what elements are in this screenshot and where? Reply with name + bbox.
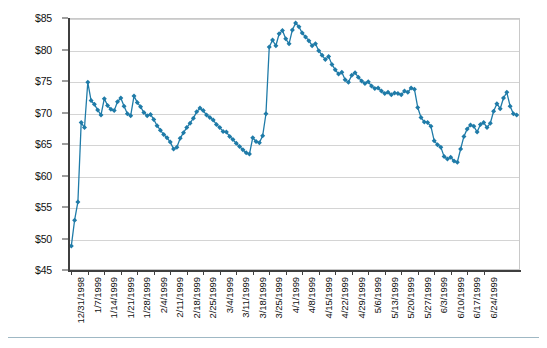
x-axis-tick-label: 4/22/1999 — [339, 277, 350, 318]
x-axis-tick-label: 5/20/1999 — [405, 277, 416, 318]
y-axis-tick-labels: $45$50$55$60$65$70$75$80$85 — [0, 0, 66, 348]
y-axis-tick-label: $45 — [35, 264, 52, 276]
x-axis-tick-label: 4/8/1999 — [306, 277, 317, 313]
x-axis-tick-mark — [236, 270, 237, 275]
x-axis-tick-label: 12/31/1998 — [75, 277, 86, 324]
series-line — [71, 23, 516, 246]
x-axis-tick-label: 4/15/1999 — [323, 277, 334, 318]
x-axis-tick-label: 6/10/1999 — [455, 277, 466, 318]
y-axis-tick-label: $65 — [35, 138, 52, 150]
x-axis-tick-label: 6/3/1999 — [438, 277, 449, 313]
y-axis-tick-mark — [62, 175, 68, 176]
x-axis-tick-mark — [137, 270, 138, 275]
x-axis-tick-label: 5/6/1999 — [372, 277, 383, 313]
data-point-marker — [85, 80, 90, 85]
x-axis-tick-mark — [269, 270, 270, 275]
x-axis-tick-mark — [418, 270, 419, 275]
x-axis-tick-mark — [484, 270, 485, 275]
y-axis-tick-mark — [62, 81, 68, 82]
x-axis-tick-mark — [302, 270, 303, 275]
y-axis-tick-mark — [62, 207, 68, 208]
x-axis-tick-mark — [170, 270, 171, 275]
data-point-marker — [508, 104, 513, 109]
data-point-marker — [461, 134, 466, 139]
x-axis-tick-mark — [71, 270, 72, 275]
x-axis-tick-label: 3/11/1999 — [240, 277, 251, 318]
x-axis-tick-label: 2/25/1999 — [207, 277, 218, 318]
x-axis-tick-label: 3/4/1999 — [224, 277, 235, 313]
y-axis-tick-mark — [62, 18, 68, 19]
x-axis-tick-mark — [220, 270, 221, 275]
y-axis-tick-mark — [62, 49, 68, 50]
data-point-marker — [263, 111, 268, 116]
bottom-divider — [8, 337, 539, 338]
y-axis-tick-label: $85 — [35, 12, 52, 24]
x-axis-tick-label: 5/13/1999 — [389, 277, 400, 318]
x-axis-tick-label: 6/24/1999 — [488, 277, 499, 318]
x-axis-tick-label: 2/18/1999 — [191, 277, 202, 318]
data-point-marker — [267, 44, 272, 49]
data-point-marker — [131, 94, 136, 99]
data-point-marker — [491, 109, 496, 114]
x-axis-tick-label: 1/28/1999 — [141, 277, 152, 318]
data-point-marker — [122, 104, 127, 109]
data-point-marker — [290, 27, 295, 32]
x-axis-tick-label: 5/27/1999 — [422, 277, 433, 318]
x-axis-tick-mark — [319, 270, 320, 275]
x-axis-tick-label: 4/29/1999 — [356, 277, 367, 318]
x-axis-tick-mark — [121, 270, 122, 275]
x-axis-tick-label: 1/14/1999 — [108, 277, 119, 318]
data-point-marker — [75, 199, 80, 204]
x-axis-tick-label: 6/17/1999 — [471, 277, 482, 318]
x-axis-tick-mark — [203, 270, 204, 275]
x-axis-tick-mark — [104, 270, 105, 275]
x-axis-tick-mark — [352, 270, 353, 275]
data-point-marker — [415, 105, 420, 110]
x-axis-tick-mark — [467, 270, 468, 275]
x-axis-tick-label: 4/1/1999 — [290, 277, 301, 313]
line-series — [68, 18, 520, 270]
x-axis-tick-mark — [154, 270, 155, 275]
x-axis-tick-mark — [451, 270, 452, 275]
x-axis-tick-label: 3/18/1999 — [257, 277, 268, 318]
y-axis-tick-label: $80 — [35, 44, 52, 56]
x-axis-tick-mark — [88, 270, 89, 275]
x-axis-tick-label: 3/25/1999 — [273, 277, 284, 318]
x-axis-tick-mark — [253, 270, 254, 275]
x-axis-tick-mark — [187, 270, 188, 275]
y-axis-tick-label: $70 — [35, 107, 52, 119]
x-axis-line — [68, 270, 521, 272]
y-axis-tick-label: $75 — [35, 75, 52, 87]
x-axis-tick-mark — [434, 270, 435, 275]
y-axis-tick-mark — [62, 144, 68, 145]
x-axis-tick-mark — [401, 270, 402, 275]
x-axis-tick-label: 2/11/1999 — [174, 277, 185, 318]
x-axis-tick-mark — [335, 270, 336, 275]
y-axis-tick-mark — [62, 238, 68, 239]
data-point-marker — [458, 147, 463, 152]
y-axis-tick-label: $55 — [35, 201, 52, 213]
x-axis-tick-mark — [368, 270, 369, 275]
y-axis-tick-label: $50 — [35, 233, 52, 245]
data-point-marker — [260, 133, 265, 138]
y-axis-line — [68, 18, 70, 271]
x-axis-tick-mark — [385, 270, 386, 275]
y-axis-tick-label: $60 — [35, 170, 52, 182]
data-point-marker — [102, 96, 107, 101]
y-axis-tick-mark — [62, 270, 68, 271]
x-axis-tick-label: 1/21/1999 — [125, 277, 136, 318]
x-axis-tick-label: 1/7/1999 — [92, 277, 103, 313]
data-point-marker — [72, 218, 77, 223]
x-axis-tick-label: 2/4/1999 — [158, 277, 169, 313]
chart-container: $45$50$55$60$65$70$75$80$85 12/31/19981/… — [0, 0, 547, 348]
y-axis-tick-mark — [62, 112, 68, 113]
x-axis-tick-mark — [286, 270, 287, 275]
